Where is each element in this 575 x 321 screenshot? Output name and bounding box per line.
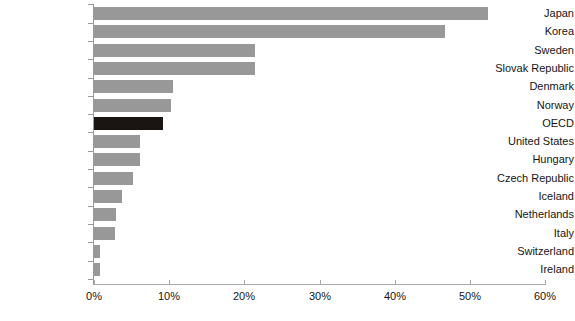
x-tick-label: 60% (515, 290, 575, 302)
category-label: Netherlands (488, 208, 574, 221)
y-tick (88, 41, 93, 42)
bar-row: Italy (0, 227, 574, 240)
bar-iceland (94, 190, 122, 203)
x-tick-label: 20% (214, 290, 274, 302)
category-label: Iceland (488, 190, 574, 203)
y-tick (88, 242, 93, 243)
bar-united-states (94, 135, 140, 148)
bar-oecd (94, 117, 163, 130)
x-tick (470, 280, 471, 285)
y-tick (88, 132, 93, 133)
x-tick (244, 280, 245, 285)
bar-switzerland (94, 245, 100, 258)
category-label: Switzerland (488, 245, 574, 258)
y-tick (88, 23, 93, 24)
bar-row: Norway (0, 99, 574, 112)
bar-row: Japan (0, 7, 574, 20)
bar-denmark (94, 80, 173, 93)
y-tick (88, 187, 93, 188)
x-tick-label: 30% (290, 290, 350, 302)
x-tick-label: 0% (64, 290, 124, 302)
category-label: Denmark (488, 80, 574, 93)
bar-sweden (94, 44, 255, 57)
bar-row: Sweden (0, 44, 574, 57)
y-tick (88, 206, 93, 207)
bar-row: Denmark (0, 80, 574, 93)
bar-ireland (94, 263, 100, 276)
x-axis-line (93, 284, 545, 285)
category-label: Slovak Republic (488, 62, 574, 75)
bar-korea (94, 25, 445, 38)
bar-slovak-republic (94, 62, 255, 75)
y-tick (88, 169, 93, 170)
bar-row: Korea (0, 25, 574, 38)
category-label: Ireland (488, 263, 574, 276)
bar-row: Iceland (0, 190, 574, 203)
y-tick (88, 224, 93, 225)
bar-norway (94, 99, 171, 112)
bar-row: Czech Republic (0, 172, 574, 185)
y-tick (88, 4, 93, 5)
category-label: Italy (488, 227, 574, 240)
x-tick-label: 10% (139, 290, 199, 302)
x-tick-label: 40% (365, 290, 425, 302)
bar-row: United States (0, 135, 574, 148)
category-label: Korea (488, 25, 574, 38)
bar-row: Ireland (0, 263, 574, 276)
category-label: Japan (488, 7, 574, 20)
category-label: Sweden (488, 44, 574, 57)
category-label: Hungary (488, 153, 574, 166)
category-label: OECD (488, 117, 574, 130)
y-tick (88, 151, 93, 152)
bar-netherlands (94, 208, 116, 221)
bar-row: Hungary (0, 153, 574, 166)
category-label: Czech Republic (488, 172, 574, 185)
x-tick-label: 50% (440, 290, 500, 302)
bar-row: Netherlands (0, 208, 574, 221)
y-tick (88, 261, 93, 262)
bar-row: OECD (0, 117, 574, 130)
x-tick (169, 280, 170, 285)
bar-hungary (94, 153, 140, 166)
x-tick (94, 280, 95, 285)
bar-czech-republic (94, 172, 133, 185)
x-tick (545, 280, 546, 285)
y-tick (88, 114, 93, 115)
y-tick (88, 279, 93, 280)
bar-italy (94, 227, 115, 240)
x-tick (395, 280, 396, 285)
x-tick (320, 280, 321, 285)
bar-row: Slovak Republic (0, 62, 574, 75)
y-tick (88, 96, 93, 97)
y-tick (88, 78, 93, 79)
category-label: Norway (488, 99, 574, 112)
y-tick (88, 59, 93, 60)
bar-row: Switzerland (0, 245, 574, 258)
bar-japan (94, 7, 488, 20)
category-label: United States (488, 135, 574, 148)
